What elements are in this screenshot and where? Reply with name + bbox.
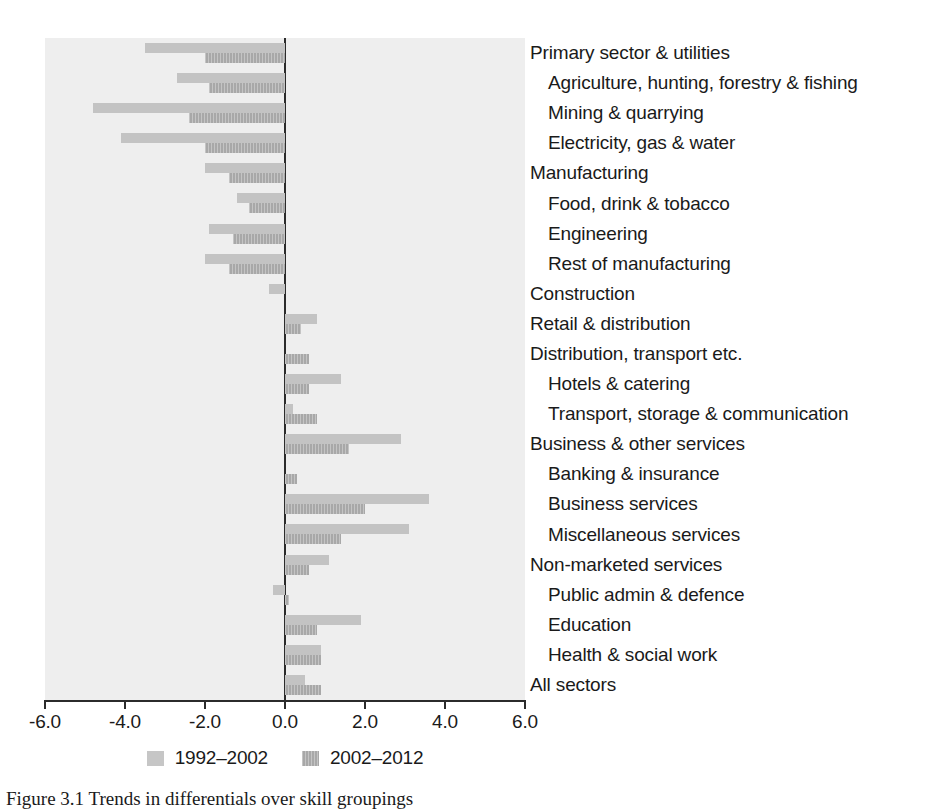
- x-tick-label: 4.0: [432, 711, 458, 733]
- x-tick: [524, 700, 526, 709]
- bar-row: [45, 188, 525, 218]
- legend-item: 1992–2002: [147, 747, 268, 769]
- bar-row: [45, 158, 525, 188]
- bar-row: [45, 309, 525, 339]
- x-tick: [124, 700, 126, 709]
- figure-caption: Figure 3.1 Trends in differentials over …: [6, 788, 626, 810]
- x-tick-label: 0.0: [272, 711, 298, 733]
- bar-series2: [229, 173, 285, 183]
- bar-series2: [285, 324, 301, 334]
- bar-series2: [205, 143, 285, 153]
- bar-series1: [285, 434, 401, 444]
- bar-series2: [285, 534, 341, 544]
- bar-series1: [285, 374, 341, 384]
- bar-row: [45, 640, 525, 670]
- x-tick: [444, 700, 446, 709]
- bar-row: [45, 128, 525, 158]
- category-label: Engineering: [548, 224, 648, 243]
- category-label: Food, drink & tobacco: [548, 194, 730, 213]
- category-label: Agriculture, hunting, forestry & fishing: [548, 73, 858, 92]
- bar-row: [45, 98, 525, 128]
- legend-label: 2002–2012: [330, 747, 423, 769]
- category-label: Primary sector & utilities: [530, 43, 730, 62]
- bar-row: [45, 670, 525, 700]
- bar-series1: [237, 193, 285, 203]
- bar-series2: [249, 203, 285, 213]
- category-label-list: Primary sector & utilitiesAgriculture, h…: [530, 38, 930, 700]
- x-tick-label: 6.0: [512, 711, 538, 733]
- category-label: Mining & quarrying: [548, 103, 704, 122]
- category-label: Public admin & defence: [548, 585, 744, 604]
- x-tick: [364, 700, 366, 709]
- bar-series2: [285, 625, 317, 635]
- category-label: Rest of manufacturing: [548, 254, 731, 273]
- category-label: Business & other services: [530, 434, 745, 453]
- bar-row: [45, 219, 525, 249]
- bar-series1: [285, 524, 409, 534]
- x-tick-label: 2.0: [352, 711, 378, 733]
- x-tick: [204, 700, 206, 709]
- bar-series2: [229, 264, 285, 274]
- bar-series2: [285, 565, 309, 575]
- bar-row: [45, 339, 525, 369]
- bar-series1: [121, 133, 285, 143]
- legend-swatch-1: [147, 751, 164, 766]
- bar-row: [45, 249, 525, 279]
- category-label: Hotels & catering: [548, 374, 690, 393]
- bar-series1: [285, 615, 361, 625]
- category-label: Retail & distribution: [530, 314, 691, 333]
- x-tick-label: -6.0: [29, 711, 61, 733]
- category-label: Electricity, gas & water: [548, 133, 735, 152]
- bar-series1: [285, 555, 329, 565]
- bar-row: [45, 489, 525, 519]
- bar-series1: [269, 284, 285, 294]
- legend-item: 2002–2012: [302, 747, 423, 769]
- x-tick: [284, 700, 286, 709]
- category-label: Business services: [548, 494, 698, 513]
- legend-swatch-2: [302, 751, 319, 766]
- bar-row: [45, 399, 525, 429]
- chart-legend: 1992–20022002–2012: [45, 745, 525, 771]
- bar-series2: [285, 474, 297, 484]
- bar-series2: [285, 384, 309, 394]
- x-tick: [44, 700, 46, 709]
- bar-series1: [205, 254, 285, 264]
- bar-series1: [145, 43, 285, 53]
- category-label: Non-marketed services: [530, 555, 722, 574]
- bar-series2: [285, 504, 365, 514]
- bar-series1: [273, 585, 285, 595]
- bar-series2: [285, 685, 321, 695]
- bar-row: [45, 519, 525, 549]
- bar-series2: [205, 53, 285, 63]
- bar-row: [45, 459, 525, 489]
- bar-series2: [285, 354, 309, 364]
- bar-row: [45, 550, 525, 580]
- category-label: All sectors: [530, 675, 616, 694]
- x-tick-label: -2.0: [189, 711, 221, 733]
- bar-row: [45, 38, 525, 68]
- category-label: Construction: [530, 284, 635, 303]
- x-tick-label: -4.0: [109, 711, 141, 733]
- bar-series1: [177, 73, 285, 83]
- bar-series1: [285, 645, 321, 655]
- category-label: Manufacturing: [530, 163, 648, 182]
- category-label: Banking & insurance: [548, 464, 719, 483]
- bar-series2: [209, 83, 285, 93]
- category-label: Miscellaneous services: [548, 525, 740, 544]
- bar-series1: [285, 404, 293, 414]
- bar-series1: [285, 675, 305, 685]
- bar-series2: [189, 113, 285, 123]
- bar-row: [45, 580, 525, 610]
- bar-row: [45, 429, 525, 459]
- bar-series2: [285, 444, 349, 454]
- plot-area: [45, 38, 525, 700]
- bar-series2: [285, 414, 317, 424]
- bar-series1: [205, 163, 285, 173]
- category-label: Distribution, transport etc.: [530, 344, 742, 363]
- bar-row: [45, 610, 525, 640]
- bar-series2: [285, 655, 321, 665]
- bar-row: [45, 68, 525, 98]
- bar-series1: [285, 494, 429, 504]
- bar-series1: [209, 224, 285, 234]
